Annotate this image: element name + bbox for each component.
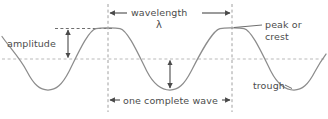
one-complete-wave-label: one complete wave — [123, 95, 218, 106]
peak-or-crest-label: peak or crest — [265, 19, 325, 43]
wave-diagram: amplitude wavelength λ one complete wave… — [0, 0, 328, 119]
wavelength-label: wavelength — [131, 7, 187, 18]
peak-crest-leader-line — [234, 25, 262, 28]
trough-label: trough — [253, 80, 285, 91]
lambda-symbol-label: λ — [156, 19, 162, 30]
amplitude-label: amplitude — [7, 38, 56, 49]
